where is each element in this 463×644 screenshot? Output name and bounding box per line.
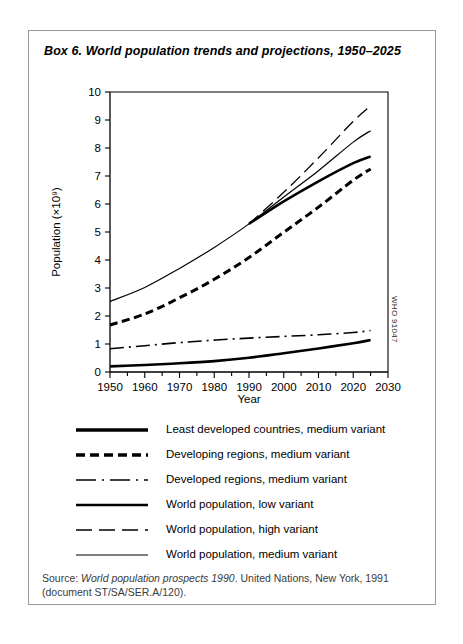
source-divider [28,604,436,605]
source-note: Source: World population prospects 1990.… [42,571,424,599]
box-title: Box 6. World population trends and proje… [44,44,414,58]
legend-item: World population, low variant [76,493,416,518]
source-title: World population prospects 1990 [81,572,235,584]
legend-item: Least developed countries, medium varian… [76,418,416,443]
legend-label: World population, medium variant [166,548,337,560]
legend-label: World population, high variant [166,523,318,535]
source-prefix: Source: [42,572,81,584]
legend-swatch-dash-dot [76,468,148,493]
legend-label: Developed regions, medium variant [166,473,347,485]
legend-swatch-thick-solid [76,493,148,518]
chart-legend: Least developed countries, medium varian… [76,418,416,568]
legend-item: Developing regions, medium variant [76,443,416,468]
legend-item: Developed regions, medium variant [76,468,416,493]
who-reference-code: WHO 91047 [390,296,399,343]
legend-swatch-long-dash [76,518,148,543]
legend-item: World population, high variant [76,518,416,543]
legend-swatch-thick-dashed [76,443,148,468]
legend-item: World population, medium variant [76,543,416,568]
page-root: Box 6. World population trends and proje… [0,0,463,644]
legend-label: World population, low variant [166,498,313,510]
legend-label: Least developed countries, medium varian… [166,423,385,435]
legend-label: Developing regions, medium variant [166,448,349,460]
legend-swatch-thin-solid [76,543,148,568]
legend-swatch-thick-solid [76,418,148,443]
